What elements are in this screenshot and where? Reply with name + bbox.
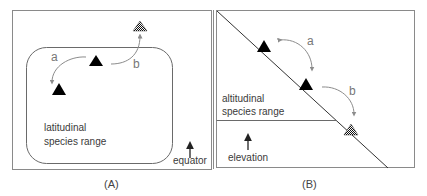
equator-label: equator bbox=[173, 155, 208, 166]
arrow-a-label: a bbox=[307, 34, 314, 48]
solid-triangle-icon bbox=[89, 55, 103, 66]
panel-b-caption: (B) bbox=[302, 178, 317, 190]
solid-triangle-icon bbox=[257, 40, 271, 52]
range-label-line1: altitudinal bbox=[222, 93, 264, 104]
range-label-line2: species range bbox=[222, 106, 285, 117]
elevation-label: elevation bbox=[228, 152, 268, 163]
checkered-triangle-icon bbox=[133, 21, 147, 31]
arrow-b-label: b bbox=[349, 84, 356, 98]
range-label-line1: latitudinal bbox=[44, 122, 86, 133]
panel-a-caption: (A) bbox=[104, 178, 119, 190]
range-label-line2: species range bbox=[44, 136, 107, 147]
solid-triangle-icon bbox=[52, 83, 66, 95]
panel-b-frame bbox=[217, 11, 415, 168]
arrow-b-label: b bbox=[133, 57, 140, 71]
solid-triangle-icon bbox=[299, 78, 313, 90]
arrow-a-label: a bbox=[51, 50, 58, 64]
figure-canvas: a b latitudinal species range equator (A… bbox=[0, 0, 427, 196]
panel-b: a b altitudinal species range elevation … bbox=[214, 10, 415, 190]
panel-a-frame bbox=[13, 11, 212, 170]
panel-a: a b latitudinal species range equator (A… bbox=[13, 11, 212, 191]
